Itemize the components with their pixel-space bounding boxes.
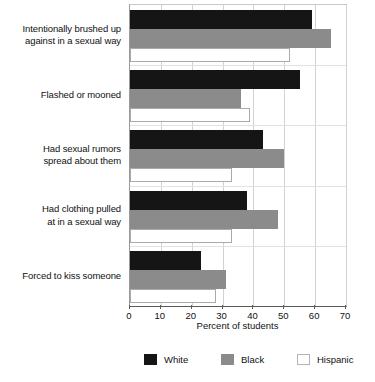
x-axis-tick — [160, 305, 161, 309]
plot-area — [129, 4, 347, 307]
x-axis-tick — [129, 305, 130, 309]
gridline — [346, 5, 347, 306]
category-label-line: Flashed or mooned — [41, 89, 121, 100]
x-axis-tick — [283, 305, 284, 309]
legend-swatch-black — [221, 354, 234, 365]
legend-item-white[interactable]: White — [144, 352, 188, 366]
x-axis-tick — [345, 305, 346, 309]
category-label: Forced to kiss someone — [0, 270, 121, 283]
bar-hispanic-5 — [130, 289, 216, 303]
gridline — [315, 5, 316, 306]
bar-black-3 — [130, 149, 284, 168]
category-axis-labels: Intentionally brushed upagainst in a sex… — [0, 4, 124, 305]
bar-black-1 — [130, 29, 331, 48]
category-label: Had sexual rumorsspread about them — [0, 143, 121, 168]
group-separator — [130, 246, 346, 247]
legend-swatch-hispanic — [297, 354, 310, 365]
bar-hispanic-1 — [130, 48, 290, 62]
category-label-line: Had sexual rumors — [43, 143, 121, 154]
x-axis-tick — [252, 305, 253, 309]
x-axis-tick — [314, 305, 315, 309]
bar-hispanic-2 — [130, 108, 250, 122]
category-label-line: spread about them — [43, 155, 121, 166]
legend-item-black[interactable]: Black — [221, 352, 264, 366]
bar-black-4 — [130, 210, 278, 229]
bar-white-1 — [130, 10, 312, 29]
category-label: Intentionally brushed upagainst in a sex… — [0, 23, 121, 48]
legend-label: Black — [241, 354, 264, 365]
group-separator — [130, 125, 346, 126]
legend-item-hispanic[interactable]: Hispanic — [297, 352, 353, 366]
bar-white-5 — [130, 251, 201, 270]
category-label-line: at in a sexual way — [47, 216, 121, 227]
bar-white-4 — [130, 191, 247, 210]
bar-hispanic-4 — [130, 229, 232, 243]
bar-chart: Intentionally brushed upagainst in a sex… — [0, 0, 375, 382]
bar-hispanic-3 — [130, 168, 232, 182]
category-label-line: Had clothing pulled — [42, 203, 121, 214]
x-axis-tick — [191, 305, 192, 309]
category-label: Had clothing pulledat in a sexual way — [0, 203, 121, 228]
bar-black-2 — [130, 89, 241, 108]
x-axis-tick — [222, 305, 223, 309]
category-label-line: against in a sexual way — [25, 35, 121, 46]
group-separator — [130, 65, 346, 66]
group-separator — [130, 186, 346, 187]
bar-white-3 — [130, 130, 263, 149]
bar-white-2 — [130, 70, 300, 89]
legend-label: Hispanic — [317, 354, 353, 365]
chart-legend: WhiteBlackHispanic — [129, 352, 359, 370]
bar-black-5 — [130, 270, 226, 289]
category-label-line: Forced to kiss someone — [22, 270, 121, 281]
legend-label: White — [164, 354, 188, 365]
legend-swatch-white — [144, 354, 157, 365]
category-label-line: Intentionally brushed up — [23, 23, 121, 34]
x-axis-title: Percent of students — [129, 320, 346, 331]
category-label: Flashed or mooned — [0, 89, 121, 102]
